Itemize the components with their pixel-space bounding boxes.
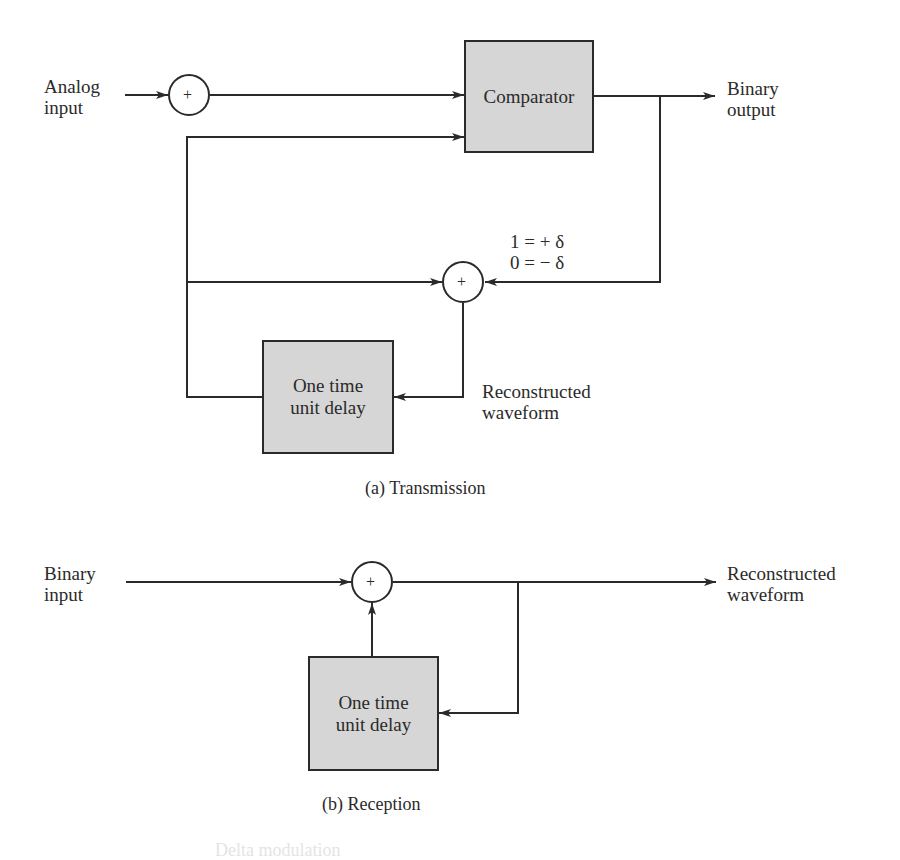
comparator-label: Comparator: [484, 86, 575, 108]
reception-reconstructed-label: Reconstructed waveform: [727, 563, 836, 605]
comparator-block: Comparator: [464, 40, 594, 153]
reception-caption: (b) Reception: [322, 794, 420, 815]
adder-3-plus-icon: +: [366, 571, 375, 592]
quantize-rule-label: 1 = + δ 0 = − δ: [510, 231, 564, 273]
binary-output-label: Binary output: [727, 78, 779, 120]
analog-input-label: Analog input: [44, 76, 100, 118]
adder-1-plus-icon: +: [183, 84, 192, 105]
figure-caption-partial: Delta modulation: [215, 840, 340, 860]
binary-input-label: Binary input: [44, 563, 96, 605]
transmission-reconstructed-label: Reconstructed waveform: [482, 381, 591, 423]
transmission-caption: (a) Transmission: [365, 478, 486, 499]
transmission-wiring: [125, 95, 715, 397]
reception-delay-block: One time unit delay: [308, 656, 439, 771]
transmission-delay-block: One time unit delay: [262, 340, 394, 454]
adder-2-plus-icon: +: [457, 271, 466, 292]
